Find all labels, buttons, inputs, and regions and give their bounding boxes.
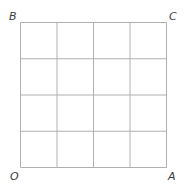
grid — [0, 0, 189, 193]
vertex-label-b: B — [9, 11, 17, 22]
vertex-label-a: A — [168, 171, 176, 182]
vertex-label-o: O — [10, 171, 19, 182]
vertex-label-c: C — [169, 11, 177, 22]
